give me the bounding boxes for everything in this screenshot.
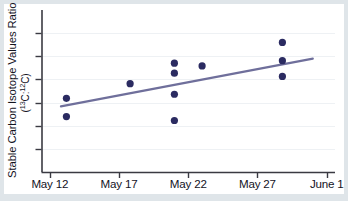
data-points-group: [63, 39, 286, 124]
figure-container: Stable Carbon Isotope Values Ratio (13C:…: [0, 0, 348, 201]
x-axis-tick-label: May 27: [222, 177, 292, 190]
data-point: [279, 39, 286, 46]
x-axis-tick-label: May 12: [15, 177, 85, 190]
x-axis-tick-label: May 17: [84, 177, 154, 190]
y-axis-ticks-group: [36, 34, 42, 150]
data-point: [63, 95, 70, 102]
x-axis-tick-label: June 1: [292, 177, 348, 190]
data-point: [198, 62, 205, 69]
trend-line: [61, 59, 313, 107]
scatter-plot: [0, 0, 348, 201]
data-point: [171, 70, 178, 77]
x-axis-tick-label: May 22: [153, 177, 223, 190]
data-point: [171, 117, 178, 124]
data-point: [63, 113, 70, 120]
data-point: [171, 91, 178, 98]
data-point: [171, 60, 178, 67]
gridlines-group: [42, 34, 336, 150]
data-point: [279, 73, 286, 80]
data-point: [279, 57, 286, 64]
data-point: [127, 80, 134, 87]
